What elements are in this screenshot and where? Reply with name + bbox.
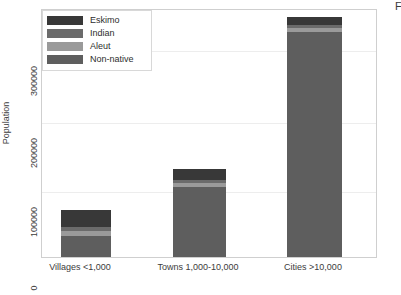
x-tick-label-towns: Towns 1,000-10,000 (128, 262, 268, 272)
bar-segment-villages-eskimo (61, 210, 111, 227)
legend-item-indian[interactable]: Indian (47, 27, 147, 40)
plot-area: Eskimo Indian Aleut Non-native (41, 9, 377, 258)
legend-swatch-non-native (47, 55, 83, 64)
legend-swatch-aleut (47, 42, 83, 51)
legend-item-non-native[interactable]: Non-native (47, 53, 147, 66)
y-tick-label-300000: 300000 (29, 51, 39, 111)
legend-label-eskimo: Eskimo (90, 16, 120, 25)
x-tick-label-villages: Villages <1,000 (20, 262, 140, 272)
bar-segment-villages-non-native (61, 236, 111, 257)
y-axis-label: Population (1, 68, 11, 178)
bar-segment-cities-eskimo (287, 17, 342, 25)
legend-label-indian: Indian (90, 29, 115, 38)
bar-cities[interactable] (287, 17, 342, 257)
legend-swatch-indian (47, 29, 83, 38)
legend-label-non-native: Non-native (90, 55, 134, 64)
bar-segment-towns-eskimo (173, 169, 226, 180)
bar-towns[interactable] (173, 169, 226, 257)
legend-label-aleut: Aleut (90, 42, 111, 51)
bar-villages[interactable] (61, 210, 111, 257)
bar-segment-towns-non-native (173, 187, 226, 257)
legend-item-eskimo[interactable]: Eskimo (47, 14, 147, 27)
y-tick-label-100000: 100000 (29, 192, 39, 252)
legend-swatch-eskimo (47, 16, 83, 25)
legend: Eskimo Indian Aleut Non-native (42, 10, 152, 71)
x-tick-label-cities: Cities >10,000 (253, 262, 373, 272)
y-tick-label-200000: 200000 (29, 123, 39, 183)
figure-corner-letter: F (395, 1, 401, 12)
legend-item-aleut[interactable]: Aleut (47, 40, 147, 53)
bar-segment-cities-non-native (287, 32, 342, 257)
